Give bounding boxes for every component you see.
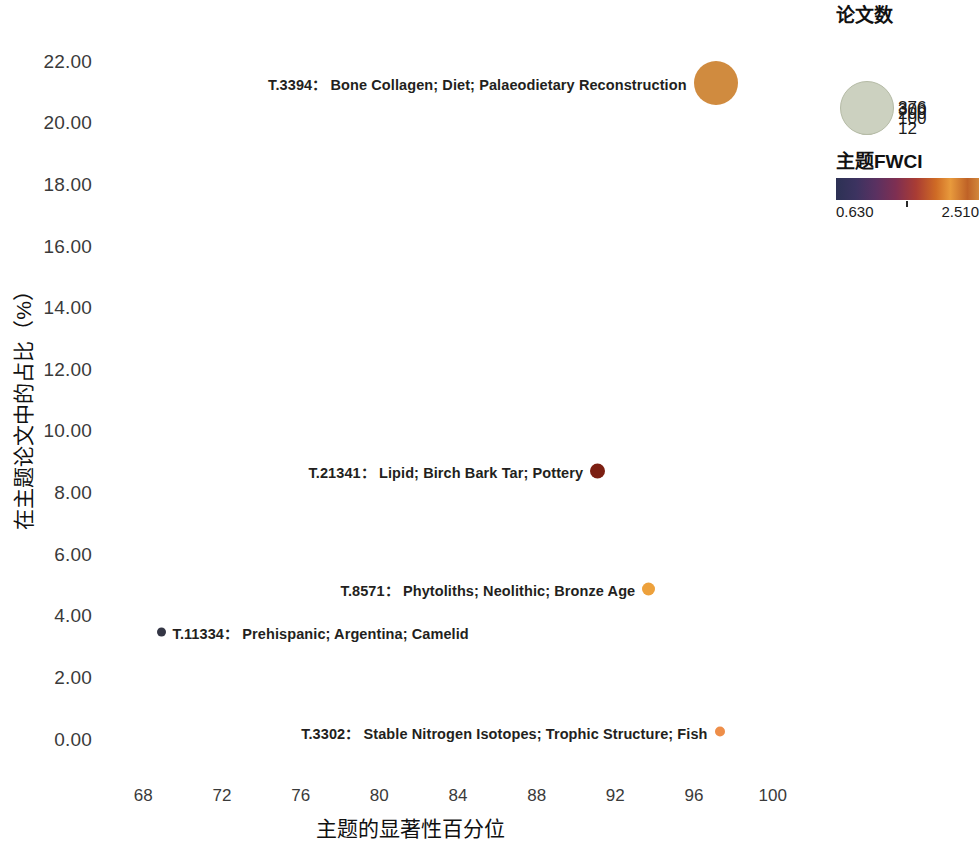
color-legend-scale: 0.630 2.510 (836, 203, 979, 225)
size-legend: 论文数 12100200300376 (836, 6, 979, 139)
data-point-bubble[interactable] (590, 464, 605, 479)
data-point-group[interactable]: T.3302： Stable Nitrogen Isotopes; Trophi… (301, 721, 724, 742)
size-legend-label: 376 (898, 98, 926, 118)
data-point-group[interactable]: T.8571： Phytoliths; Neolithic; Bronze Ag… (341, 578, 656, 599)
data-point-label: T.3394： Bone Collagen; Diet; Palaeodieta… (268, 73, 687, 94)
color-legend-title: 主题FWCI (836, 152, 979, 173)
color-legend-max-label: 2.510 (941, 203, 979, 220)
data-point-group[interactable]: T.21341： Lipid; Birch Bark Tar; Pottery (308, 461, 605, 482)
size-legend-items: 12100200300376 (836, 31, 979, 139)
data-point-group[interactable]: T.11334： Prehispanic; Argentina; Camelid (157, 621, 469, 642)
data-point-label: T.3302： Stable Nitrogen Isotopes; Trophi… (301, 721, 707, 742)
data-point-group[interactable]: T.3394： Bone Collagen; Diet; Palaeodieta… (268, 61, 738, 105)
size-legend-bubble (840, 81, 894, 135)
data-point-label: T.11334： Prehispanic; Argentina; Camelid (173, 621, 469, 642)
data-point-bubble[interactable] (715, 727, 725, 737)
data-point-bubble[interactable] (157, 627, 166, 636)
color-legend: 主题FWCI 0.630 2.510 (836, 152, 979, 225)
data-point-bubble[interactable] (642, 582, 655, 595)
color-gradient-bar (836, 178, 979, 200)
data-point-bubble[interactable] (694, 61, 738, 105)
data-point-label: T.21341： Lipid; Birch Bark Tar; Pottery (308, 461, 583, 482)
color-legend-min-label: 0.630 (836, 203, 874, 220)
data-point-label: T.8571： Phytoliths; Neolithic; Bronze Ag… (341, 578, 636, 599)
size-legend-title: 论文数 (836, 6, 979, 27)
